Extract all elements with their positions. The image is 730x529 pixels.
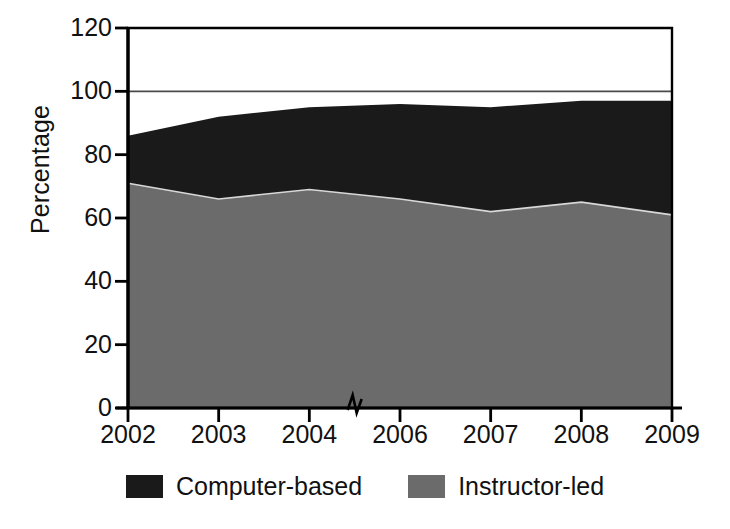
legend-entry-instructor-led[interactable]: Instructor-led xyxy=(408,474,604,499)
area-series-group xyxy=(128,101,672,408)
area-series-instructor-led xyxy=(128,183,672,408)
legend-entry-computer-based[interactable]: Computer-based xyxy=(126,474,362,499)
x-tick-label-2007: 2007 xyxy=(463,422,519,447)
x-tick-label-2006: 2006 xyxy=(372,422,428,447)
legend-swatch-icon xyxy=(408,475,445,498)
legend-label: Instructor-led xyxy=(458,474,604,499)
legend-label: Computer-based xyxy=(176,474,362,499)
x-tick-label-2009: 2009 xyxy=(644,422,700,447)
y-tick-label-100: 100 xyxy=(70,78,112,103)
x-tick-label-2004: 2004 xyxy=(282,422,338,447)
y-tick-label-60: 60 xyxy=(84,205,112,230)
legend-swatch-icon xyxy=(126,475,163,498)
chart-legend: Computer-basedInstructor-led xyxy=(0,474,730,499)
x-tick-label-2002: 2002 xyxy=(100,422,156,447)
y-tick-label-80: 80 xyxy=(84,142,112,167)
x-tick-label-2008: 2008 xyxy=(554,422,610,447)
y-tick-label-40: 40 xyxy=(84,268,112,293)
y-tick-label-120: 120 xyxy=(70,15,112,40)
y-axis-title: Percentage xyxy=(26,70,55,270)
x-tick-label-2003: 2003 xyxy=(191,422,247,447)
y-tick-label-20: 20 xyxy=(84,332,112,357)
y-tick-label-0: 0 xyxy=(98,395,112,420)
chart-figure: Percentage 020406080100120 2002200320042… xyxy=(0,0,730,529)
